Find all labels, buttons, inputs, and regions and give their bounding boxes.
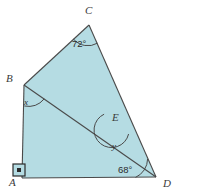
- geometry-figure: A B C D E 72° 68° x y: [0, 0, 198, 191]
- vertex-label-b: B: [6, 72, 13, 84]
- vertex-label-c: C: [85, 4, 93, 16]
- angle-label-e: y: [111, 141, 116, 151]
- angle-label-b: x: [23, 97, 28, 107]
- angle-label-c: 72°: [72, 38, 87, 49]
- vertex-label-a: A: [8, 176, 16, 188]
- geometry-diagram: A B C D E 72° 68° x y: [0, 0, 198, 191]
- vertex-label-e: E: [111, 111, 119, 123]
- vertex-label-d: D: [162, 177, 171, 189]
- angle-label-d: 68°: [118, 164, 133, 175]
- right-angle-marker-dot-a: [17, 168, 21, 172]
